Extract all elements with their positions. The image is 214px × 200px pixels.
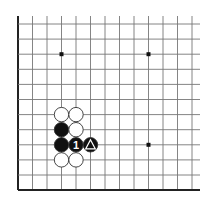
star-point bbox=[147, 143, 151, 147]
black-stone: 1 bbox=[69, 138, 83, 152]
white-stone bbox=[69, 107, 83, 121]
white-stone bbox=[69, 153, 83, 167]
stone-body bbox=[54, 138, 68, 152]
stones: 1 bbox=[54, 107, 97, 167]
star-point bbox=[60, 52, 64, 56]
white-stone bbox=[54, 153, 68, 167]
stone-body bbox=[54, 107, 68, 121]
stone-body bbox=[54, 123, 68, 137]
move-number-label: 1 bbox=[73, 139, 79, 151]
white-stone bbox=[54, 107, 68, 121]
grid-lines bbox=[18, 16, 200, 190]
go-board: 1 bbox=[0, 0, 214, 200]
white-stone bbox=[69, 123, 83, 137]
black-stone bbox=[54, 138, 68, 152]
stone-body bbox=[69, 107, 83, 121]
stone-body bbox=[69, 153, 83, 167]
black-stone bbox=[83, 138, 97, 152]
black-stone bbox=[54, 123, 68, 137]
stone-body bbox=[69, 123, 83, 137]
star-point bbox=[147, 52, 151, 56]
stone-body bbox=[54, 153, 68, 167]
